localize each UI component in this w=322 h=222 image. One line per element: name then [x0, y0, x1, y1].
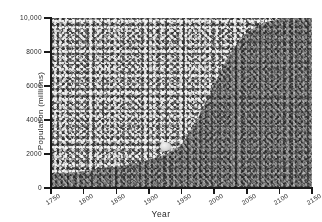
y-tick-mark — [44, 153, 51, 155]
x-tick-label: 2100 — [273, 192, 290, 206]
x-axis-title: Year — [0, 209, 322, 219]
y-axis-line — [50, 17, 52, 189]
population-chart: 0200040006000800010,000 1750180018501900… — [0, 0, 322, 222]
y-tick-label: 2000 — [26, 150, 42, 157]
y-tick-mark — [44, 17, 51, 19]
x-tick-label: 2150 — [305, 192, 322, 206]
x-tick-label: 2050 — [240, 192, 257, 206]
x-tick-mark — [148, 189, 150, 194]
y-tick-label: 0 — [38, 184, 42, 191]
plot-area — [51, 18, 312, 188]
x-tick-label: 1850 — [110, 192, 127, 206]
y-axis-title: Population (millions) — [36, 72, 45, 150]
x-tick-mark — [116, 189, 118, 194]
x-tick-mark — [279, 189, 281, 194]
x-tick-mark — [83, 189, 85, 194]
x-tick-label: 1800 — [77, 192, 94, 206]
y-tick-label: 10,000 — [20, 14, 42, 21]
x-tick-label: 1950 — [175, 192, 192, 206]
y-tick-label: 8000 — [26, 48, 42, 55]
x-tick-mark — [50, 189, 52, 194]
x-tick-mark — [246, 189, 248, 194]
y-tick-mark — [44, 51, 51, 53]
x-tick-mark — [311, 189, 313, 194]
x-tick-label: 1750 — [44, 192, 61, 206]
y-tick-mark — [44, 85, 51, 87]
x-tick-mark — [213, 189, 215, 194]
y-tick-mark — [44, 119, 51, 121]
x-tick-label: 2000 — [207, 192, 224, 206]
x-tick-label: 1900 — [142, 192, 159, 206]
x-tick-mark — [181, 189, 183, 194]
